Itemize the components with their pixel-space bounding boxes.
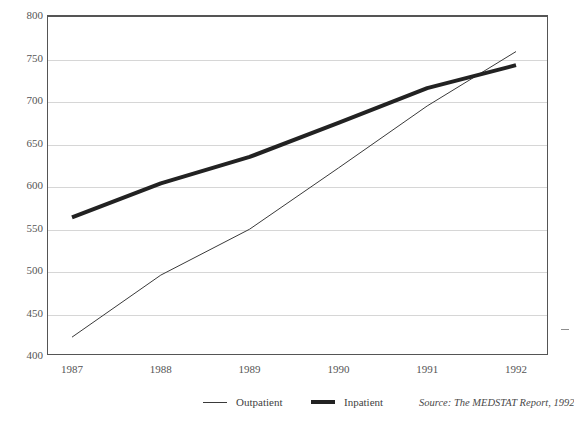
legend-label-inpatient: Inpatient (344, 396, 383, 408)
x-tick-label: 1988 (150, 363, 172, 375)
x-tick-label: 1991 (416, 363, 438, 375)
series-line-inpatient (72, 65, 516, 217)
y-tick-label: 650 (27, 137, 44, 149)
y-tick-label: 400 (27, 349, 44, 361)
clipped-title-strip (0, 0, 569, 11)
y-tick-label: 700 (27, 94, 44, 106)
source-note: Source: The MEDSTAT Report, 1992 (419, 397, 574, 408)
y-tick-label: 750 (27, 52, 44, 64)
x-tick-label: 1989 (239, 363, 261, 375)
y-tick-label: 450 (27, 307, 44, 319)
y-tick-label: 800 (27, 9, 44, 21)
y-tick-label: 500 (27, 264, 44, 276)
legend-label-outpatient: Outpatient (236, 396, 282, 408)
series-line-outpatient (72, 52, 516, 338)
legend-entry-outpatient[interactable]: Outpatient (203, 396, 282, 408)
legend-swatch-inpatient-icon (311, 400, 335, 404)
series-layer (47, 15, 548, 355)
x-tick-label: 1987 (61, 363, 83, 375)
y-tick-label: 600 (27, 179, 44, 191)
legend-swatch-outpatient-icon (203, 402, 227, 403)
legend-entry-inpatient[interactable]: Inpatient (311, 396, 383, 408)
chart-legend: Outpatient Inpatient Source: The MEDSTAT… (0, 396, 569, 418)
y-tick-label: 550 (27, 222, 44, 234)
x-tick-label: 1992 (505, 363, 527, 375)
x-tick-label: 1990 (327, 363, 349, 375)
page-edge-mark (561, 329, 569, 330)
